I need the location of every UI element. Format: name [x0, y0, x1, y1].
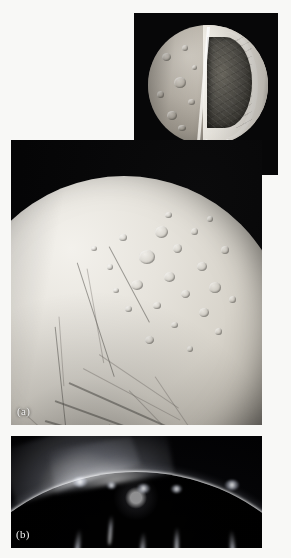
limb-terminator-shading [11, 176, 262, 425]
panel-a-label: (a) [17, 405, 30, 417]
enceladus-globe-model [148, 25, 268, 145]
plume-source [225, 480, 239, 490]
panel-b-south-polar-plumes [11, 436, 262, 548]
terminator-shading [148, 25, 268, 145]
panel-b-label: (b) [16, 528, 30, 540]
figure-enceladus: (a) (b) [0, 0, 291, 558]
panel-a-enceladus-surface [11, 140, 262, 425]
